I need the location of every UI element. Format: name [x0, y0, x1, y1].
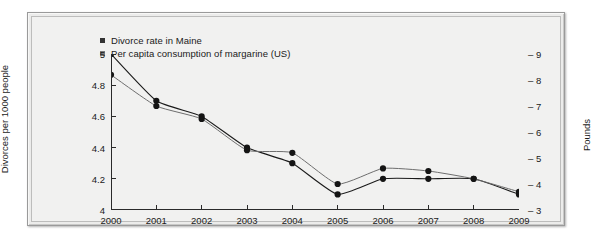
chart-frame: Divorce rate in Maine Per capita consump…	[27, 12, 565, 226]
data-point	[153, 103, 159, 109]
y-axis-left-tick-label: 5	[81, 49, 105, 60]
y-axis-left-tick-label: 4.6	[81, 111, 105, 122]
series-line-2	[111, 75, 519, 192]
x-axis-tick-label: 2009	[508, 215, 529, 226]
y-axis-right-title: Pounds	[581, 119, 591, 151]
x-axis-tick-label: 2004	[282, 215, 303, 226]
data-point	[425, 176, 431, 182]
data-point	[471, 176, 477, 182]
x-axis-tick-label: 2007	[418, 215, 439, 226]
data-point	[289, 150, 295, 156]
x-axis-tick-label: 2005	[327, 215, 348, 226]
legend-item-divorce-rate: Divorce rate in Maine	[100, 34, 290, 47]
data-point	[244, 147, 250, 153]
data-point	[335, 181, 341, 187]
y-axis-left-title: Divorces per 1000 people	[0, 65, 10, 173]
y-axis-right-tick-label: – 3	[528, 205, 541, 216]
x-axis-tick-label: 2006	[372, 215, 393, 226]
y-axis-left-tick-label: 4	[81, 205, 105, 216]
data-point	[335, 191, 341, 197]
x-axis-tick-label: 2008	[463, 215, 484, 226]
data-point	[425, 168, 431, 174]
y-axis-right-tick-label: – 9	[528, 49, 541, 60]
x-axis-tick-label: 2001	[146, 215, 167, 226]
legend-label-divorce-rate: Divorce rate in Maine	[111, 34, 202, 47]
y-axis-left-tick-label: 4.4	[81, 142, 105, 153]
x-axis-tick-label: 2003	[236, 215, 257, 226]
data-point	[380, 176, 386, 182]
y-axis-right-tick-label: – 4	[528, 179, 541, 190]
y-axis-left-tick-label: 4.2	[81, 173, 105, 184]
chart-frame-inner: Divorce rate in Maine Per capita consump…	[31, 16, 561, 222]
data-point	[289, 160, 295, 166]
x-axis-tick-label: 2000	[100, 215, 121, 226]
y-axis-right-tick-label: – 7	[528, 101, 541, 112]
series-line-1	[111, 54, 519, 194]
y-axis-right-tick-label: – 5	[528, 153, 541, 164]
chart-svg	[111, 54, 519, 210]
data-point	[380, 165, 386, 171]
y-axis-right-tick-label: – 8	[528, 75, 541, 86]
y-axis-left-tick-label: 4.8	[81, 80, 105, 91]
x-axis-tick-label: 2002	[191, 215, 212, 226]
legend-swatch-divorce-rate	[100, 38, 105, 43]
chart-plot-area	[111, 54, 519, 210]
chart-figure: Divorce rate in Maine Per capita consump…	[0, 0, 591, 240]
y-axis-right-tick-label: – 6	[528, 127, 541, 138]
data-point	[199, 116, 205, 122]
